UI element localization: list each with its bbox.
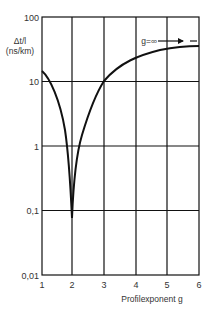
- arrow-icon: [178, 38, 184, 44]
- chart: 100 10 1 0,1 0,01 1 2 3 4 5 6 Profilexpo…: [0, 0, 213, 317]
- y-axis-label-line2: (ns/km): [6, 46, 35, 56]
- svg-text:g=∞: g=∞: [141, 36, 157, 46]
- svg-text:100: 100: [24, 13, 39, 23]
- svg-text:4: 4: [133, 280, 138, 290]
- series-line: [42, 46, 199, 218]
- grid: [42, 17, 199, 275]
- y-axis-label-line1: Δt/l: [14, 36, 26, 46]
- svg-text:10: 10: [29, 77, 39, 87]
- x-axis-label: Profilexponent g: [121, 294, 183, 304]
- svg-text:2: 2: [69, 280, 74, 290]
- svg-text:3: 3: [101, 280, 106, 290]
- annotation-g-infinity: g=∞: [141, 36, 197, 46]
- svg-text:1: 1: [39, 280, 44, 290]
- svg-text:0,1: 0,1: [26, 206, 39, 216]
- svg-text:5: 5: [164, 280, 169, 290]
- svg-text:1: 1: [34, 142, 39, 152]
- x-tick-labels: 1 2 3 4 5 6: [39, 280, 201, 290]
- svg-text:0,01: 0,01: [21, 271, 39, 281]
- svg-text:6: 6: [196, 280, 201, 290]
